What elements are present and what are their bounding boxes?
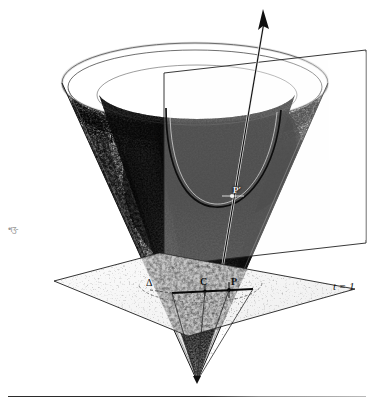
label-sigma: Σ	[152, 133, 158, 144]
apex-point	[193, 376, 201, 384]
vertical-slice-plane	[164, 50, 366, 266]
light-cone-figure: Σ Δ C P P′ t = 1 •ıʒ‐	[0, 0, 380, 407]
label-point-p: P	[231, 277, 237, 287]
page-rule	[8, 396, 366, 397]
margin-scan-artifact: •ıʒ‐	[8, 225, 18, 234]
label-hyperplane-t-equals-1: t = 1	[333, 281, 354, 292]
slice-plane-outside-wash	[328, 52, 366, 243]
apex-wedge-speckle	[172, 289, 253, 381]
label-delta: Δ	[146, 278, 152, 288]
label-point-c: C	[200, 277, 207, 287]
figure-canvas	[0, 0, 380, 407]
label-point-p-prime: P′	[233, 186, 241, 195]
apex-lines	[172, 289, 253, 381]
